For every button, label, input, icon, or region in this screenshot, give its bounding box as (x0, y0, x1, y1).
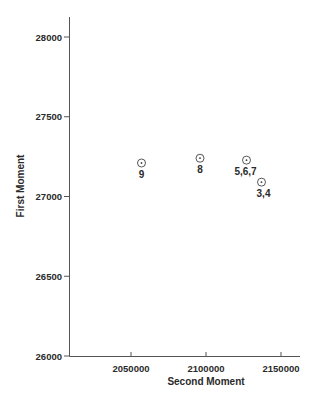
point-label: 9 (139, 169, 145, 180)
point-label: 8 (197, 164, 203, 175)
data-point: 5,6,7 (234, 156, 257, 177)
x-tick-label: 2150000 (263, 363, 300, 374)
x-ticks: 205000021000002150000 (113, 352, 300, 374)
center-dot-icon (246, 159, 248, 161)
y-ticks: 2600026500270002750028000 (36, 32, 70, 362)
y-tick-label: 27500 (36, 111, 62, 122)
y-axis-label: First Moment (15, 154, 26, 217)
center-dot-icon (199, 157, 201, 159)
y-tick-label: 28000 (36, 32, 62, 43)
y-tick-label: 26500 (36, 271, 62, 282)
y-tick-label: 26000 (36, 351, 62, 362)
y-tick-label: 27000 (36, 191, 62, 202)
axes (70, 17, 301, 357)
scatter-chart: 2600026500270002750028000 20500002100000… (0, 0, 316, 402)
data-point: 3,4 (257, 178, 271, 199)
x-tick-label: 2100000 (188, 363, 225, 374)
data-point: 8 (196, 154, 204, 175)
point-label: 5,6,7 (234, 166, 257, 177)
data-points: 985,6,73,4 (138, 154, 271, 199)
center-dot-icon (141, 162, 143, 164)
x-tick-label: 2050000 (113, 363, 150, 374)
point-label: 3,4 (257, 188, 271, 199)
center-dot-icon (261, 181, 263, 183)
x-axis-label: Second Moment (167, 376, 245, 387)
data-point: 9 (138, 159, 146, 180)
